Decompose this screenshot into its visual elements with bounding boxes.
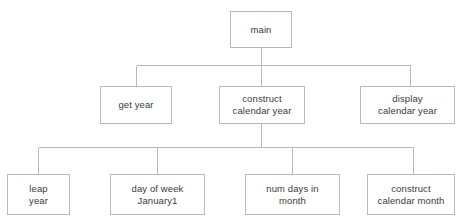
structure-chart-diagram: main get year construct calendar year di… <box>0 0 471 219</box>
node-get-year-label: get year <box>118 99 153 111</box>
node-num-days-in-month-label: num days in month <box>266 183 318 207</box>
node-construct-calendar-year[interactable]: construct calendar year <box>219 86 305 124</box>
node-day-of-week-january1[interactable]: day of week January1 <box>110 174 205 215</box>
node-construct-calendar-month-label: construct calendar month <box>378 183 445 207</box>
node-main[interactable]: main <box>230 11 292 48</box>
node-leap-year-label: leap year <box>29 183 48 207</box>
node-get-year[interactable]: get year <box>100 86 172 124</box>
node-construct-calendar-month[interactable]: construct calendar month <box>367 174 455 215</box>
node-display-calendar-year-label: display calendar year <box>378 93 437 117</box>
node-day-of-week-january1-label: day of week January1 <box>132 183 184 207</box>
node-main-label: main <box>251 24 272 36</box>
node-leap-year[interactable]: leap year <box>7 174 70 215</box>
node-num-days-in-month[interactable]: num days in month <box>245 174 340 215</box>
node-construct-calendar-year-label: construct calendar year <box>233 93 292 117</box>
node-display-calendar-year[interactable]: display calendar year <box>360 86 455 124</box>
